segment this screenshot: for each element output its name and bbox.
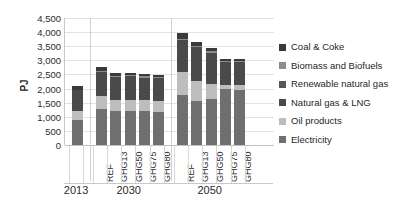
bar-2050-GHG50[interactable] <box>206 48 217 145</box>
bar-2030-GHG80[interactable] <box>153 75 164 145</box>
bar-segment <box>177 40 188 72</box>
x-axis-tick <box>216 146 217 184</box>
legend-swatch-renewable-natural-gas <box>279 81 286 88</box>
bar-segment <box>110 100 121 111</box>
legend-swatch-oil-products <box>279 118 286 125</box>
y-axis-tick-label: 1,000 <box>37 112 61 121</box>
legend-swatch-electricity <box>279 136 286 143</box>
legend-item[interactable]: Oil products <box>279 112 417 131</box>
bar-segment <box>139 100 150 111</box>
legend: Coal & CokeBiomass and BiofuelsRenewable… <box>279 38 417 149</box>
x-axis-tick <box>202 146 203 184</box>
bar-segment <box>234 62 245 84</box>
bar-segment <box>153 112 164 145</box>
plot-area <box>64 18 272 145</box>
x-axis-tick <box>188 146 189 184</box>
bar-segment <box>139 111 150 145</box>
legend-swatch-natural-gas-lng <box>279 99 286 106</box>
bar-segment <box>191 47 202 81</box>
y-axis-tick-label: 4,000 <box>37 28 61 37</box>
bar-segment <box>234 90 245 145</box>
bar-segment <box>96 72 107 97</box>
bar-2050-GHG75[interactable] <box>220 59 231 145</box>
bar-segment <box>191 101 202 145</box>
x-axis-group-label: 2030 <box>116 184 140 196</box>
x-axis-tick <box>245 146 246 184</box>
y-axis-tick-label: 4,500 <box>37 14 61 23</box>
x-axis-tick <box>231 146 232 184</box>
legend-label: Electricity <box>291 135 332 145</box>
x-axis-tick <box>150 146 151 184</box>
x-axis-tick <box>121 146 122 184</box>
legend-label: Natural gas & LNG <box>291 98 371 108</box>
x-axis-category-labels: REFGHG13GHG50GHG75GHG80REFGHG13GHG50GHG7… <box>64 146 272 184</box>
bar-segment <box>206 84 217 99</box>
bar-2030-GHG13[interactable] <box>110 73 121 145</box>
y-axis-tick-label: 3,500 <box>37 42 61 51</box>
bar-2030-REF[interactable] <box>96 67 107 145</box>
y-axis-tick-label: 3,000 <box>37 56 61 65</box>
x-axis-tick <box>93 146 94 184</box>
bar-2013-[interactable] <box>72 86 83 145</box>
x-axis-tick <box>135 146 136 184</box>
bar-segment <box>177 72 188 95</box>
bar-2050-REF[interactable] <box>177 33 188 145</box>
bars-layer <box>65 18 272 145</box>
legend-swatch-biomass-biofuels <box>279 62 286 69</box>
y-axis-tick-label: 500 <box>45 126 61 135</box>
stacked-bar-chart: PJ 4,5004,0003,5003,0002,5002,0001,5001,… <box>0 0 419 207</box>
x-axis-tick <box>174 146 175 184</box>
bar-segment <box>177 95 188 145</box>
legend-label: Biomass and Biofuels <box>291 61 382 71</box>
y-axis-tick-label: 2,000 <box>37 84 61 93</box>
y-axis-tick-label: 2,500 <box>37 70 61 79</box>
bar-segment <box>110 111 121 145</box>
bar-2030-GHG75[interactable] <box>139 74 150 145</box>
bar-segment <box>206 99 217 145</box>
bar-segment <box>125 111 136 145</box>
y-axis-tick-labels: 4,5004,0003,5003,0002,5002,0001,5001,000… <box>25 12 61 152</box>
bar-segment <box>125 76 136 99</box>
legend-item[interactable]: Renewable natural gas <box>279 75 417 94</box>
legend-label: Oil products <box>291 116 342 126</box>
bar-segment <box>220 62 231 85</box>
bar-segment <box>153 78 164 100</box>
x-axis-group-label: 2013 <box>64 184 88 196</box>
bar-segment <box>125 100 136 112</box>
y-axis-tick-label: 1,500 <box>37 98 61 107</box>
x-axis-group-label: 2050 <box>197 184 221 196</box>
bar-segment <box>96 96 107 109</box>
bar-segment <box>72 111 83 120</box>
bar-2050-GHG80[interactable] <box>234 59 245 145</box>
legend-swatch-coal-coke <box>279 44 286 51</box>
legend-item[interactable]: Biomass and Biofuels <box>279 57 417 76</box>
x-axis-tick <box>83 146 84 184</box>
bar-segment <box>153 101 164 112</box>
x-axis-tick <box>164 146 165 184</box>
x-axis-tick <box>69 146 70 184</box>
bar-segment <box>139 78 150 101</box>
bar-segment <box>110 77 121 100</box>
x-axis-tick <box>107 146 108 184</box>
bar-segment <box>96 109 107 145</box>
bar-segment <box>206 53 217 84</box>
x-axis-group-labels: 201320302050 <box>64 184 272 204</box>
legend-item[interactable]: Electricity <box>279 131 417 150</box>
bar-2050-GHG13[interactable] <box>191 42 202 145</box>
legend-label: Renewable natural gas <box>291 79 388 89</box>
legend-item[interactable]: Coal & Coke <box>279 38 417 57</box>
y-axis-tick-label: 0 <box>56 141 61 150</box>
bar-segment <box>72 120 83 145</box>
legend-label: Coal & Coke <box>291 42 344 52</box>
bar-segment <box>191 81 202 101</box>
bar-segment <box>72 90 83 111</box>
bar-segment <box>220 89 231 145</box>
legend-item[interactable]: Natural gas & LNG <box>279 94 417 113</box>
bar-2030-GHG50[interactable] <box>125 73 136 145</box>
